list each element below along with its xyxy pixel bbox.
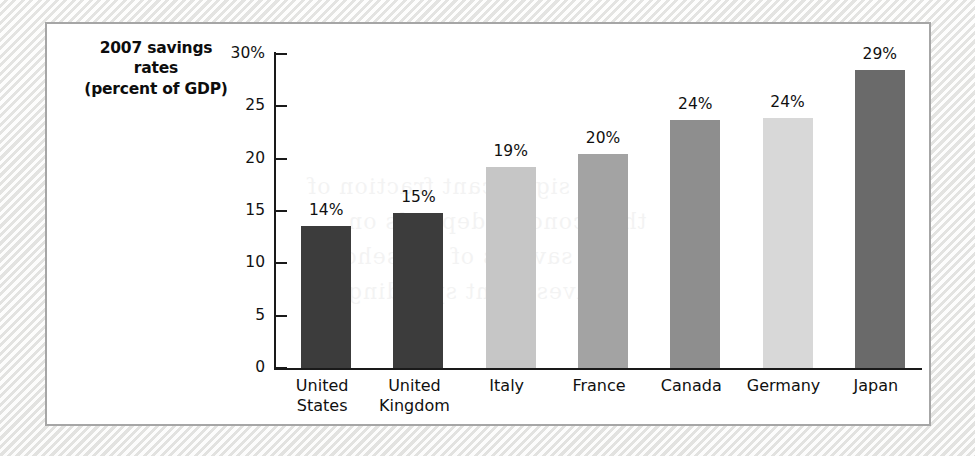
x-label-line-1: Germany [731,376,835,396]
x-label-united-kingdom: UnitedKingdom [362,376,466,415]
x-label-line-2: States [270,396,374,416]
bar-united-kingdom [393,213,443,368]
x-label-line-1: France [547,376,651,396]
x-axis-line [274,368,922,370]
y-tick-label-0: 0 [205,360,265,376]
bar-germany [763,118,813,368]
y-tick-label-20: 20 [205,151,265,167]
x-label-line-1: Italy [455,376,559,396]
x-label-italy: Italy [455,376,559,396]
y-tick-label-30: 30% [205,46,265,62]
y-tick-mark-0 [276,367,287,369]
bar-value-label-canada: 24% [656,97,734,113]
bar-value-label-japan: 29% [841,47,919,63]
bar-value-label-united-kingdom: 15% [379,190,457,206]
x-label-france: France [547,376,651,396]
y-tick-label-10: 10 [205,255,265,271]
bar-canada [670,120,720,368]
y-tick-mark-30 [276,53,287,55]
x-label-line-1: United [362,376,466,396]
x-label-line-2: Kingdom [362,396,466,416]
y-tick-mark-25 [276,105,287,107]
bar-value-label-france: 20% [564,131,642,147]
bar-value-label-italy: 19% [472,144,550,160]
bar-france [578,154,628,368]
x-label-line-1: Japan [824,376,928,396]
x-label-japan: Japan [824,376,928,396]
y-tick-label-15: 15 [205,203,265,219]
x-label-canada: Canada [639,376,743,396]
y-tick-mark-15 [276,210,287,212]
y-tick-mark-5 [276,315,287,317]
figure-panel: a significant fraction ofthe economy dep… [45,22,931,426]
bar-italy [486,167,536,368]
page-background: a significant fraction ofthe economy dep… [0,0,975,456]
y-tick-mark-10 [276,262,287,264]
y-tick-mark-20 [276,158,287,160]
y-tick-label-25: 25 [205,98,265,114]
bar-united-states [301,226,351,368]
x-label-germany: Germany [731,376,835,396]
bar-japan [855,70,905,368]
x-label-united-states: UnitedStates [270,376,374,415]
bar-value-label-germany: 24% [749,95,827,111]
plot-area: 051015202530% 14%15%19%20%24%24%29% Unit… [47,24,933,428]
x-label-line-1: Canada [639,376,743,396]
bar-value-label-united-states: 14% [287,203,365,219]
y-tick-label-5: 5 [205,308,265,324]
x-label-line-1: United [270,376,374,396]
